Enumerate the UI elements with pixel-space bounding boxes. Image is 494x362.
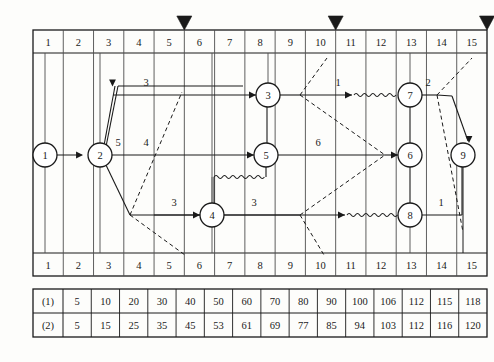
summary-table-cell-r1-c10: 90 [326, 296, 337, 307]
checkpoint-marker-1 [177, 16, 192, 30]
time-axis-top-label-4: 4 [136, 37, 142, 48]
summary-table-cell-r2-c10: 85 [326, 320, 337, 331]
summary-table-cell-r2-c13: 112 [409, 320, 424, 331]
dashed-link-3-up [300, 58, 327, 95]
time-axis-bottom-label-5: 5 [167, 260, 172, 271]
float-wave-before-8 [347, 214, 397, 217]
summary-table-cell-r2-c14: 116 [437, 320, 452, 331]
node-label-9: 9 [460, 150, 465, 161]
time-axis-top-label-8: 8 [257, 37, 262, 48]
arrow-head [338, 212, 345, 219]
node-label-4: 4 [209, 210, 215, 221]
summary-table-cell-r1-c1: 5 [75, 296, 80, 307]
summary-table-cell-r2-c3: 25 [128, 320, 139, 331]
checkpoint-marker-2 [328, 16, 343, 30]
node-label-6: 6 [407, 150, 412, 161]
time-axis-top-label-15: 15 [467, 37, 478, 48]
arrow-head [345, 92, 352, 99]
diagram-canvas: 1234567891011121314151234567891011121314… [0, 0, 494, 362]
time-axis-bottom-label-3: 3 [106, 260, 111, 271]
time-axis-bottom-label-6: 6 [197, 260, 202, 271]
time-axis-bottom-label-14: 14 [436, 260, 447, 271]
time-axis-bottom-label-9: 9 [288, 260, 293, 271]
time-axis-top-label-5: 5 [167, 37, 172, 48]
time-axis-bottom-label-2: 2 [76, 260, 81, 271]
duration-2-5: 4 [143, 137, 149, 148]
time-axis-bottom-label-12: 12 [376, 260, 387, 271]
dashed-link-bottom-down [130, 215, 185, 255]
time-axis-bottom-label-13: 13 [406, 260, 417, 271]
duration-2-3: 3 [143, 77, 148, 88]
summary-table-cell-r2-c5: 45 [185, 320, 196, 331]
summary-table-cell-r1-c7: 60 [241, 296, 252, 307]
time-axis-bottom-label-7: 7 [227, 260, 232, 271]
duration-2-4: 3 [171, 197, 176, 208]
dashed-link-bottom-drop [300, 215, 324, 255]
activity-7-9-b [437, 95, 452, 96]
time-axis-top-label-2: 2 [76, 37, 81, 48]
summary-table-cell-r1-c12: 106 [380, 296, 396, 307]
node-label-5: 5 [263, 150, 268, 161]
time-scaled-network-diagram-page: 1234567891011121314151234567891011121314… [0, 0, 494, 362]
time-axis-bottom-label-1: 1 [46, 260, 51, 271]
summary-table-cell-r2-c12: 103 [380, 320, 396, 331]
float-wave-5 [214, 176, 264, 179]
dashed-link-bottom-to-6 [300, 155, 385, 215]
summary-table-cell-r2-c6: 53 [213, 320, 224, 331]
summary-table-cell-r1-c5: 40 [185, 296, 196, 307]
time-axis-top-label-10: 10 [315, 37, 326, 48]
summary-table-row-label-1: (1) [42, 296, 55, 308]
duration-8-9: 1 [438, 197, 443, 208]
time-axis-bottom-label-10: 10 [315, 260, 326, 271]
time-axis-bottom-label-15: 15 [467, 260, 478, 271]
arrow-head [249, 92, 256, 99]
summary-table-row-label-2: (2) [42, 320, 55, 332]
summary-table-cell-r1-c6: 50 [213, 296, 224, 307]
arrow-head [109, 80, 116, 87]
summary-table-cell-r1-c14: 115 [437, 296, 452, 307]
summary-table-cell-r2-c11: 94 [355, 320, 366, 331]
summary-table-cell-r1-c2: 10 [100, 296, 111, 307]
riser-2-to-bottom [105, 162, 130, 215]
time-axis-top-label-11: 11 [346, 37, 356, 48]
duration-5-6: 6 [315, 137, 320, 148]
summary-table-cell-r2-c7: 61 [241, 320, 252, 331]
summary-table-cell-r2-c15: 120 [465, 320, 481, 331]
activity-7-9-c [452, 96, 468, 141]
time-axis-bottom-label-11: 11 [346, 260, 356, 271]
time-axis-top-label-12: 12 [376, 37, 387, 48]
summary-table-cell-r1-c13: 112 [409, 296, 424, 307]
arrow-head [466, 136, 473, 143]
time-axis-top-label-3: 3 [106, 37, 111, 48]
time-axis-top-label-13: 13 [406, 37, 417, 48]
summary-table-cell-r2-c9: 77 [298, 320, 309, 331]
summary-table-cell-r2-c1: 5 [75, 320, 80, 331]
time-axis-top-label-6: 6 [197, 37, 202, 48]
summary-table-cell-r1-c9: 80 [298, 296, 309, 307]
node-label-1: 1 [42, 150, 47, 161]
summary-table-cell-r1-c4: 30 [157, 296, 168, 307]
time-axis-bottom-label-8: 8 [257, 260, 262, 271]
node-label-7: 7 [407, 90, 412, 101]
checkpoint-marker-3 [480, 16, 494, 30]
time-axis-top-label-14: 14 [436, 37, 447, 48]
time-axis-top-label-9: 9 [288, 37, 293, 48]
time-axis-top-label-1: 1 [46, 37, 51, 48]
duration-4-6: 3 [251, 197, 256, 208]
arrow-head [76, 152, 83, 159]
summary-table-cell-r2-c8: 69 [270, 320, 281, 331]
summary-table-cell-r1-c8: 70 [270, 296, 281, 307]
summary-table-cell-r1-c15: 118 [465, 296, 480, 307]
node-label-2: 2 [97, 150, 102, 161]
summary-table-cell-r1-c11: 100 [352, 296, 368, 307]
summary-table-cell-r2-c2: 15 [100, 320, 111, 331]
arrow-head [247, 152, 254, 159]
duration-7-9: 2 [425, 77, 430, 88]
time-axis-top-label-7: 7 [227, 37, 232, 48]
node-label-3: 3 [265, 90, 270, 101]
time-axis-bottom-label-4: 4 [136, 260, 142, 271]
summary-table-cell-r2-c4: 35 [157, 320, 168, 331]
duration-1-2: 5 [115, 137, 120, 148]
float-wave-before-7 [354, 94, 396, 97]
node-label-8: 8 [407, 210, 412, 221]
